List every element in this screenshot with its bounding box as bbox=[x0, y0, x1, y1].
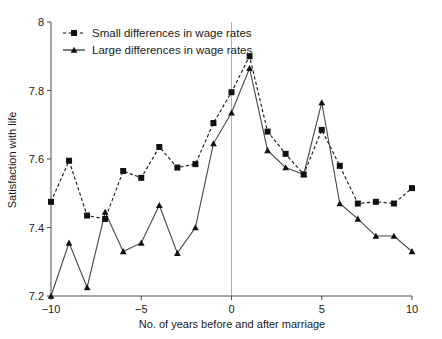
data-point-marker bbox=[373, 199, 379, 205]
data-point-marker bbox=[409, 185, 415, 191]
data-point-marker bbox=[84, 284, 91, 290]
data-point-marker bbox=[174, 165, 180, 171]
y-tick-label: 8 bbox=[38, 16, 44, 28]
data-point-marker bbox=[48, 199, 54, 205]
data-point-marker bbox=[192, 224, 199, 230]
data-point-marker bbox=[156, 144, 162, 150]
x-tick-label: 5 bbox=[319, 303, 325, 315]
x-tick-label: −5 bbox=[135, 303, 148, 315]
data-point-marker bbox=[66, 158, 72, 164]
data-point-marker bbox=[138, 175, 144, 181]
data-point-marker bbox=[228, 109, 235, 115]
y-tick-label: 7.6 bbox=[29, 153, 44, 165]
x-tick-label: −10 bbox=[42, 303, 61, 315]
data-point-marker bbox=[319, 127, 325, 133]
chart-figure: 7.27.47.67.88 −10−50510 Small difference… bbox=[0, 0, 442, 339]
data-point-marker bbox=[210, 140, 217, 146]
chart-legend: Small differences in wage ratesLarge dif… bbox=[63, 27, 252, 56]
legend-label-1: Small differences in wage rates bbox=[92, 27, 252, 39]
data-point-marker bbox=[229, 89, 235, 95]
data-point-marker bbox=[318, 99, 325, 105]
x-tick-label: 10 bbox=[406, 303, 418, 315]
data-point-marker bbox=[138, 240, 145, 246]
y-axis-title: Satisfaction with life bbox=[6, 112, 18, 209]
y-tick-label: 7.4 bbox=[29, 222, 44, 234]
legend-label-2: Large differences in wage rates bbox=[92, 44, 252, 56]
data-point-marker bbox=[102, 209, 109, 215]
data-point-marker bbox=[283, 151, 289, 157]
data-point-marker bbox=[391, 201, 397, 207]
x-axis-ticks-group: −10−50510 bbox=[42, 296, 418, 315]
data-point-marker bbox=[120, 248, 127, 254]
data-point-marker bbox=[120, 168, 126, 174]
data-point-marker bbox=[102, 216, 108, 222]
data-point-marker bbox=[156, 202, 163, 208]
data-point-marker bbox=[66, 240, 73, 246]
data-point-marker bbox=[192, 161, 198, 167]
data-point-marker bbox=[355, 201, 361, 207]
line-chart-svg: 7.27.47.67.88 −10−50510 Small difference… bbox=[0, 0, 442, 339]
data-point-marker bbox=[84, 213, 90, 219]
y-tick-label: 7.8 bbox=[29, 85, 44, 97]
data-point-marker bbox=[337, 163, 343, 169]
data-point-marker bbox=[265, 129, 271, 135]
data-point-marker bbox=[336, 200, 343, 206]
data-point-marker bbox=[264, 147, 271, 153]
x-axis-title: No. of years before and after marriage bbox=[139, 318, 325, 330]
x-tick-label: 0 bbox=[228, 303, 234, 315]
data-point-marker bbox=[210, 120, 216, 126]
y-axis-ticks-group: 7.27.47.67.88 bbox=[29, 16, 51, 302]
y-tick-label: 7.2 bbox=[29, 290, 44, 302]
legend-marker-1 bbox=[71, 30, 77, 36]
